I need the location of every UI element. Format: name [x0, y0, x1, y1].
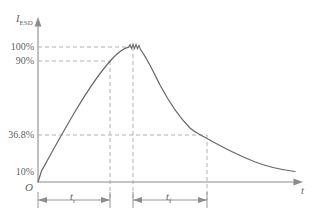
origin-label: O: [25, 182, 33, 193]
rising-edge-curve: [38, 47, 129, 182]
esd-waveform-figure: IESD 100% 90% 36.8% 10% O t tr tf: [0, 0, 318, 218]
drop-dashed-lines: [110, 47, 207, 200]
y-axis-label-subscript: ESD: [20, 19, 33, 27]
tf-arrow-right: [198, 197, 207, 203]
y-tick-label-90: 90%: [0, 56, 34, 66]
span-label-tf: tf: [166, 192, 171, 205]
span-label-tf-subscript: f: [169, 197, 171, 205]
y-tick-label-10: 10%: [0, 167, 34, 177]
y-tick-label-100: 100%: [0, 42, 34, 52]
y-tick-label-36-8: 36.8%: [0, 130, 34, 140]
reference-dashed-lines: [38, 47, 207, 135]
y-axis-arrowhead: [35, 17, 42, 27]
span-label-tr: tr: [70, 192, 75, 205]
tr-arrow-right: [101, 197, 110, 203]
span-label-tr-subscript: r: [73, 197, 75, 205]
tf-arrow-left: [133, 197, 142, 203]
y-axis: [35, 17, 42, 182]
falling-edge-curve: [141, 50, 296, 172]
x-axis: [38, 179, 303, 186]
y-axis-label: IESD: [16, 14, 33, 27]
tr-arrow-left: [38, 197, 47, 203]
x-axis-label: t: [301, 186, 304, 197]
waveform-canvas: [0, 0, 318, 218]
